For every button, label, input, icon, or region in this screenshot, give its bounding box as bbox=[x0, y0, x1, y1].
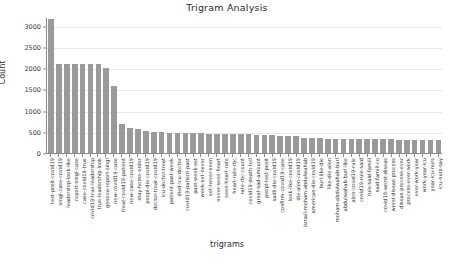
x-tick-slot: ever-work-year bbox=[410, 154, 418, 236]
x-tick-mark bbox=[58, 154, 59, 157]
bar[interactable] bbox=[364, 139, 370, 153]
bar[interactable] bbox=[167, 133, 173, 153]
x-tick-slot: covid19-patient-past bbox=[181, 154, 189, 236]
bar-slot bbox=[47, 18, 55, 153]
x-tick-slot: peopl-test-posit bbox=[260, 154, 268, 236]
bar[interactable] bbox=[56, 64, 62, 153]
x-tick-slot: genova-report-singl bbox=[101, 154, 109, 236]
x-axis-label: trigrams bbox=[0, 240, 454, 249]
bar[interactable] bbox=[309, 138, 315, 153]
x-tick-slot: leadership-look-like bbox=[62, 154, 70, 236]
bar-slot bbox=[268, 18, 276, 153]
bar-slot bbox=[434, 18, 442, 153]
y-axis-ticks: 050010001500200025003000 bbox=[0, 18, 46, 154]
bar[interactable] bbox=[127, 128, 133, 154]
bar[interactable] bbox=[135, 129, 141, 153]
bar[interactable] bbox=[372, 139, 378, 153]
bar[interactable] bbox=[175, 133, 181, 153]
x-tick-mark bbox=[414, 154, 415, 157]
x-tick-mark bbox=[113, 154, 114, 157]
bar[interactable] bbox=[412, 140, 418, 153]
x-tick-slot: past-week-set bbox=[189, 154, 197, 236]
bar-slot bbox=[142, 18, 150, 153]
bar[interactable] bbox=[48, 19, 54, 153]
bar-slot bbox=[260, 18, 268, 153]
x-tick-slot: treat-covid19-patient bbox=[117, 154, 125, 236]
x-tick-slot: icu-nurs-say bbox=[434, 154, 442, 236]
bar-slot bbox=[197, 18, 205, 153]
bar[interactable] bbox=[380, 139, 386, 153]
bar[interactable] bbox=[428, 140, 434, 153]
bar-slot bbox=[205, 18, 213, 153]
x-tick-mark bbox=[105, 154, 106, 157]
bar[interactable] bbox=[341, 139, 347, 153]
x-tick-slot: said-famili-co bbox=[371, 154, 379, 236]
bar[interactable] bbox=[183, 133, 189, 153]
bar[interactable] bbox=[159, 132, 165, 153]
x-tick-slot: singl-case-covid19 bbox=[54, 154, 62, 236]
bar[interactable] bbox=[420, 140, 426, 153]
x-tick-slot: heart-rate-rbc bbox=[228, 154, 236, 236]
bar[interactable] bbox=[396, 140, 402, 153]
bar[interactable] bbox=[333, 139, 339, 153]
bar[interactable] bbox=[317, 138, 323, 153]
bar[interactable] bbox=[88, 64, 94, 153]
bar[interactable] bbox=[119, 124, 125, 153]
bar-slot bbox=[134, 18, 142, 153]
x-tick-slot: sadli-die-covid19 bbox=[268, 154, 276, 236]
bar[interactable] bbox=[143, 131, 149, 153]
bar[interactable] bbox=[285, 136, 291, 153]
bar[interactable] bbox=[103, 68, 109, 153]
bar-slot bbox=[379, 18, 387, 153]
x-tick-mark bbox=[311, 154, 312, 157]
y-tick-label: 500 bbox=[29, 129, 41, 137]
bar-slot bbox=[340, 18, 348, 153]
x-tick-mark bbox=[256, 154, 257, 157]
x-tick-mark bbox=[248, 154, 249, 157]
bar[interactable] bbox=[72, 64, 78, 153]
bar[interactable] bbox=[349, 139, 355, 153]
bar[interactable] bbox=[198, 133, 204, 153]
x-tick-slot: case-covid19-true bbox=[78, 154, 86, 236]
bar[interactable] bbox=[262, 135, 268, 153]
bar[interactable] bbox=[404, 140, 410, 153]
x-tick-mark bbox=[280, 154, 281, 157]
bar[interactable] bbox=[206, 134, 212, 153]
x-tick-mark bbox=[200, 154, 201, 157]
x-tick-mark bbox=[367, 154, 368, 157]
bar[interactable] bbox=[230, 134, 236, 153]
x-tick-slot: test-posit-covid19 bbox=[46, 154, 54, 236]
bar[interactable] bbox=[246, 134, 252, 153]
bar[interactable] bbox=[64, 64, 70, 153]
bar[interactable] bbox=[301, 138, 307, 153]
bar[interactable] bbox=[80, 64, 86, 153]
x-tick-slot: work-year-icu bbox=[418, 154, 426, 236]
x-tick-slot: alon-covid19-rule bbox=[347, 154, 355, 236]
y-tick-label: 2500 bbox=[24, 44, 41, 52]
x-tick-slot: worst-diseas-process bbox=[387, 154, 395, 236]
bar[interactable] bbox=[325, 139, 331, 153]
bar[interactable] bbox=[356, 139, 362, 153]
x-tick-mark bbox=[224, 154, 225, 157]
bar[interactable] bbox=[190, 133, 196, 153]
x-tick-slot: moham-abdulwahab-burl bbox=[331, 154, 339, 236]
bar[interactable] bbox=[436, 140, 442, 153]
bar-slot bbox=[419, 18, 427, 153]
bar[interactable] bbox=[96, 64, 102, 153]
bar-slot bbox=[189, 18, 197, 153]
x-tick-mark bbox=[296, 154, 297, 157]
bar[interactable] bbox=[238, 134, 244, 153]
bar-slot bbox=[284, 18, 292, 153]
bar[interactable] bbox=[151, 132, 157, 153]
bar-slot bbox=[237, 18, 245, 153]
bar[interactable] bbox=[293, 136, 299, 153]
bar[interactable] bbox=[277, 136, 283, 153]
bar[interactable] bbox=[388, 139, 394, 153]
x-tick-slot: like-die-alon bbox=[323, 154, 331, 236]
bar[interactable] bbox=[254, 135, 260, 153]
bar[interactable] bbox=[214, 134, 220, 153]
x-tick-label: icu-nurs-say bbox=[438, 158, 443, 189]
bar[interactable] bbox=[269, 135, 275, 153]
bar[interactable] bbox=[222, 134, 228, 153]
bar[interactable] bbox=[111, 86, 117, 153]
